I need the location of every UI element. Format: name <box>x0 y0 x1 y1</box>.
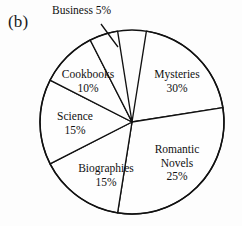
pie-label-mysteries-value: 30% <box>144 82 210 96</box>
pie-label-science-name: Science <box>44 110 106 124</box>
pie-label-mysteries-name: Mysteries <box>144 68 210 82</box>
pie-label-romantic-novels-name-line1: Romantic <box>146 143 208 157</box>
pie-label-business: Business 5% <box>52 4 111 18</box>
pie-label-business-name: Business <box>52 4 93 16</box>
pie-label-biographies-value: 15% <box>64 176 148 190</box>
pie-label-science-value: 15% <box>44 124 106 138</box>
pie-label-romantic-novels-value: 25% <box>146 170 208 184</box>
pie-chart-graphic <box>0 0 242 226</box>
pie-label-cookbooks: Cookbooks 10% <box>50 68 126 95</box>
figure-container: (b) Business 5% Cookbooks 10% Science 15… <box>0 0 242 226</box>
pie-label-biographies: Biographies 15% <box>64 162 148 189</box>
pie-label-science: Science 15% <box>44 110 106 137</box>
pie-label-cookbooks-value: 10% <box>50 82 126 96</box>
pie-label-mysteries: Mysteries 30% <box>144 68 210 95</box>
pie-label-romantic-novels-name-line2: Novels <box>146 157 208 171</box>
pie-label-cookbooks-name: Cookbooks <box>50 68 126 82</box>
pie-label-biographies-name: Biographies <box>64 162 148 176</box>
pie-label-romantic-novels: Romantic Novels 25% <box>146 143 208 184</box>
pie-label-business-value: 5% <box>96 4 111 16</box>
